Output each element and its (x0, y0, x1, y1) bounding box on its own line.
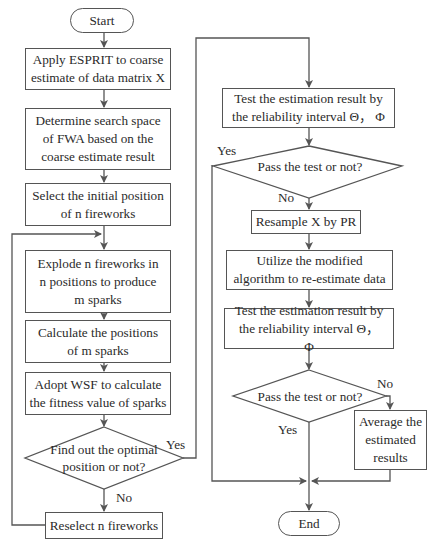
step-determine-search-space: Determine search space of FWA based on t… (25, 108, 171, 170)
start-label: Start (90, 12, 115, 30)
step-adopt-wsf: Adopt WSF to calculate the fitness value… (25, 372, 171, 415)
step-select-initial-position-label: Select the initial position of n firewor… (29, 187, 167, 223)
step-determine-search-space-label: Determine search space of FWA based on t… (29, 112, 167, 166)
decision-optimal-position: Find out the optimal position or not? (45, 432, 163, 484)
edge-label-yes-test-2: Yes (278, 422, 297, 437)
decision-pass-test-1-label: Pass the test or not? (258, 158, 363, 175)
decision-pass-test-1: Pass the test or not? (240, 150, 380, 182)
edge-label-yes-test-1: Yes (217, 143, 236, 158)
step-explode-fireworks-label: Explode n fireworks in n positions to pr… (29, 255, 167, 309)
edge-label-no-test-2: No (377, 376, 393, 391)
step-reselect-fireworks: Reselect n fireworks (45, 512, 163, 539)
step-select-initial-position: Select the initial position of n firewor… (25, 183, 171, 226)
edge-label-yes-optimal: Yes (166, 437, 185, 452)
edge-label-no-optimal: No (116, 490, 132, 505)
decision-pass-test-2: Pass the test or not? (250, 380, 370, 412)
decision-pass-test-2-label: Pass the test or not? (258, 388, 363, 405)
step-calculate-positions-label: Calculate the positions of m sparks (29, 324, 167, 360)
step-test-estimation-1-label: Test the estimation result by the reliab… (226, 90, 391, 126)
edge-label-no-test-1: No (278, 190, 294, 205)
step-apply-esprit-label: Apply ESPRIT to coarse estimate of data … (29, 51, 167, 87)
end-label: End (298, 515, 319, 533)
step-resample: Resample X by PR (251, 210, 361, 234)
step-reestimate: Utilize the modified algorithm to re-est… (226, 250, 393, 290)
step-adopt-wsf-label: Adopt WSF to calculate the fitness value… (29, 376, 167, 412)
step-calculate-positions: Calculate the positions of m sparks (25, 320, 171, 363)
step-apply-esprit: Apply ESPRIT to coarse estimate of data … (25, 48, 171, 90)
step-explode-fireworks: Explode n fireworks in n positions to pr… (25, 250, 171, 313)
step-test-estimation-2-label: Test the estimation result by the reliab… (228, 302, 390, 356)
decision-optimal-position-label: Find out the optimal position or not? (45, 441, 163, 475)
end-terminal: End (278, 511, 340, 536)
step-test-estimation-2: Test the estimation result by the reliab… (224, 308, 394, 349)
step-test-estimation-1: Test the estimation result by the reliab… (222, 88, 395, 128)
step-reestimate-label: Utilize the modified algorithm to re-est… (230, 252, 389, 288)
start-terminal: Start (70, 8, 134, 33)
step-average-results-label: Average the estimated results (358, 413, 423, 467)
step-reselect-fireworks-label: Reselect n fireworks (50, 517, 158, 535)
step-resample-label: Resample X by PR (256, 213, 357, 231)
step-average-results: Average the estimated results (354, 410, 427, 470)
